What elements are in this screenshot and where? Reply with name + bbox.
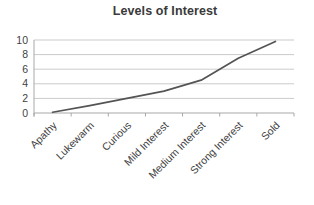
y-tick-label: 2: [22, 92, 28, 104]
x-axis-label: Sold: [258, 119, 281, 142]
interest-line-series: [53, 41, 276, 112]
y-tick-label: 0: [22, 107, 28, 119]
line-chart: 0246810ApathyLukewarmCuriousMild Interes…: [0, 0, 314, 205]
chart-canvas: Levels of Interest 0246810ApathyLukewarm…: [0, 0, 314, 205]
y-tick-label: 10: [16, 34, 28, 46]
y-tick-label: 4: [22, 77, 28, 89]
y-tick-label: 8: [22, 48, 28, 60]
x-axis-label: Curious: [99, 119, 133, 153]
x-axis-label: Lukewarm: [53, 119, 96, 162]
y-tick-label: 6: [22, 63, 28, 75]
x-axis-label: Apathy: [27, 118, 59, 150]
